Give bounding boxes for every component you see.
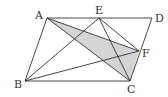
geometry-diagram: A E D B C F	[0, 0, 168, 97]
label-d: D	[155, 12, 164, 25]
label-b: B	[14, 78, 22, 91]
label-c: C	[127, 83, 135, 96]
label-e: E	[95, 4, 103, 17]
label-f: F	[142, 47, 150, 60]
label-a: A	[34, 9, 44, 22]
